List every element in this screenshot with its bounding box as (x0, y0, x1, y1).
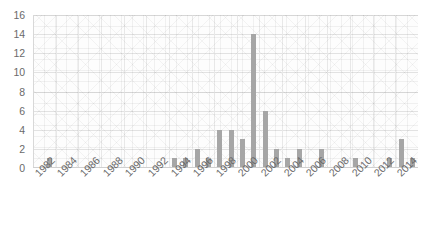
bars-layer (33, 15, 418, 168)
y-axis-tick-label: 0 (19, 163, 25, 174)
y-axis-tick-label: 2 (19, 144, 25, 155)
y-axis-line (33, 15, 34, 168)
bar-chart: 1614121086420 19821984198619881990199219… (0, 0, 432, 228)
y-axis-tick-label: 4 (19, 125, 25, 136)
bar (263, 111, 268, 168)
y-axis-tick-label: 8 (19, 86, 25, 97)
y-axis-tick-label: 16 (14, 10, 25, 21)
x-axis: 1982198419861988199019921994199619982000… (33, 169, 418, 228)
bar (251, 34, 256, 168)
y-axis: 1614121086420 (0, 15, 29, 168)
plot-area (33, 15, 418, 168)
y-axis-tick-label: 10 (14, 67, 25, 78)
y-axis-tick-label: 6 (19, 105, 25, 116)
y-axis-tick-label: 12 (14, 48, 25, 59)
y-axis-tick-label: 14 (14, 29, 25, 40)
